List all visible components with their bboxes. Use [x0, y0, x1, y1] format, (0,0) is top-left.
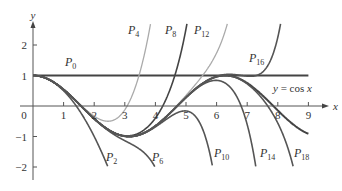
x-tick-label: 4 — [153, 109, 159, 121]
label-p6: P6 — [151, 150, 163, 166]
label-p10: P10 — [213, 146, 229, 162]
curve-p6 — [33, 76, 155, 167]
x-tick-label: 6 — [214, 109, 220, 121]
x-tick-label: 8 — [275, 109, 281, 121]
curve-p4 — [33, 24, 151, 121]
x-tick-label: 7 — [244, 109, 250, 121]
x-axis-arrow-icon — [322, 104, 329, 109]
cos-label: y = cos x — [272, 82, 312, 94]
label-p14: P14 — [259, 146, 275, 162]
x-tick-label: 2 — [91, 109, 97, 121]
y-tick-label: −1 — [15, 131, 27, 143]
label-p0: P0 — [64, 55, 76, 71]
label-p2: P2 — [105, 150, 117, 166]
label-p8: P8 — [164, 23, 176, 39]
label-p12: P12 — [193, 23, 209, 39]
x-tick-label: 0 — [21, 109, 27, 121]
label-p18: P18 — [293, 146, 309, 162]
y-tick-label: 2 — [22, 39, 28, 51]
x-tick-label: 3 — [122, 109, 128, 121]
x-tick-label: 9 — [306, 109, 312, 121]
x-axis-label: x — [332, 100, 338, 112]
x-tick-label: 5 — [183, 109, 189, 121]
y-tick-label: −2 — [15, 161, 27, 173]
label-p16: P16 — [248, 51, 264, 67]
label-p4: P4 — [127, 23, 139, 39]
y-tick-label: 1 — [22, 70, 28, 82]
axes — [20, 21, 329, 180]
y-axis-arrow-icon — [31, 21, 36, 28]
x-tick-label: 1 — [61, 109, 67, 121]
y-axis-label: y — [30, 9, 36, 21]
chart: 0123456789−2−112xyy = cos xP0P2P4P6P8P10… — [0, 0, 342, 191]
